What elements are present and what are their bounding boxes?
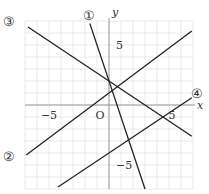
y-axis-label: y bbox=[111, 6, 119, 19]
labels: x y O −5 5 5 −5 bbox=[41, 6, 204, 172]
series-label-1: ① bbox=[83, 8, 95, 23]
axes bbox=[25, 18, 195, 189]
series-label-2: ② bbox=[3, 149, 15, 164]
x-tick-label: −5 bbox=[41, 109, 57, 122]
coordinate-plane: x y O −5 5 5 −5 ① ② ③ ④ bbox=[0, 0, 209, 194]
origin-label: O bbox=[95, 109, 104, 122]
y-tick-label: 5 bbox=[116, 39, 123, 52]
series-label-3: ③ bbox=[3, 14, 15, 29]
y-tick-label: −5 bbox=[116, 159, 132, 172]
x-tick-label: 5 bbox=[169, 109, 176, 122]
series-label-4: ④ bbox=[191, 86, 203, 101]
